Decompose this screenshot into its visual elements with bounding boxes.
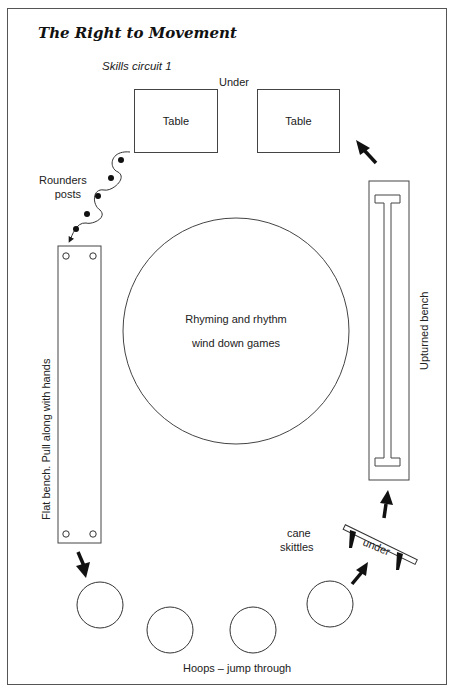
bench-peg-icon — [90, 253, 96, 259]
bench-peg-icon — [63, 531, 69, 537]
hoop-2 — [147, 607, 193, 653]
direction-arrows — [76, 140, 393, 584]
bench-peg-icon — [90, 531, 96, 537]
skittle-right-icon — [396, 552, 403, 570]
centre-area: Rhyming and rhythm wind down games — [123, 218, 349, 444]
rounders-post-4 — [84, 211, 90, 217]
hoop-3 — [230, 607, 276, 653]
rounders-post-2 — [108, 175, 114, 181]
centre-label-line1: Rhyming and rhythm — [185, 313, 287, 325]
arrow-up-right-icon — [352, 562, 368, 584]
rounders-post-5 — [73, 226, 79, 232]
upturned-bench-label: Upturned bench — [418, 292, 430, 370]
centre-label-line2: wind down games — [191, 337, 281, 349]
cane-skittles: under — [343, 525, 417, 570]
hoops — [77, 581, 353, 653]
bench-beam-icon — [375, 195, 400, 466]
rounders-post-1 — [118, 157, 124, 163]
diagram-graphics: Flat bench. Pull along with hands Rhymin… — [0, 0, 455, 695]
flat-bench — [58, 246, 101, 543]
flat-bench-label: Flat bench. Pull along with hands — [40, 358, 52, 520]
hoop-1 — [77, 582, 123, 628]
arrow-up-left-icon — [356, 140, 376, 163]
hoop-4 — [307, 581, 353, 627]
skittle-left-icon — [349, 530, 356, 548]
cane-under-label: under — [361, 536, 392, 558]
bench-peg-icon — [63, 253, 69, 259]
rounders-posts — [70, 152, 130, 240]
upturned-bench — [369, 181, 409, 480]
skills-circuit-diagram: The Right to Movement Skills circuit 1 U… — [0, 0, 455, 695]
rounders-post-3 — [95, 193, 101, 199]
arrow-up-icon — [380, 490, 393, 518]
arrow-down-icon — [76, 552, 90, 578]
